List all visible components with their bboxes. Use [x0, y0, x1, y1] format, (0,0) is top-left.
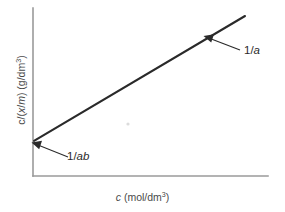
intercept-annotation-arrow [32, 141, 69, 157]
y-axis-label-close: ) [15, 55, 27, 59]
y-axis-label-var-x: x [15, 108, 27, 113]
intercept-label-prefix: 1/ [67, 150, 77, 162]
x-axis-label: c (mol/dm3) [0, 191, 285, 203]
slope-label-prefix: 1/ [244, 44, 254, 56]
x-axis-label-open: (mol/dm [121, 191, 162, 203]
chart-figure: 1/a 1/ab c (mol/dm3) c/(x/m) (g/dm3) [0, 0, 285, 212]
plot-area [0, 0, 285, 212]
scan-speck [126, 122, 129, 125]
y-axis-label-var-m: m [15, 96, 27, 105]
intercept-label-variable: ab [77, 150, 90, 162]
intercept-annotation-label: 1/ab [67, 151, 89, 163]
y-axis-label-mid: / [15, 105, 27, 108]
slope-label-variable: a [254, 44, 260, 56]
y-axis-label-tail: ) (g/dm [15, 63, 27, 96]
slope-annotation-arrow [204, 34, 241, 50]
y-axis-label-exponent: 3 [15, 59, 23, 63]
y-axis-label-lead: c/( [15, 113, 27, 125]
y-axis-label: c/(x/m) (g/dm3) [15, 55, 27, 124]
slope-annotation-label: 1/a [244, 45, 260, 57]
x-axis-label-close: ) [166, 191, 170, 203]
y-axis-label-container: c/(x/m) (g/dm3) [10, 0, 32, 180]
